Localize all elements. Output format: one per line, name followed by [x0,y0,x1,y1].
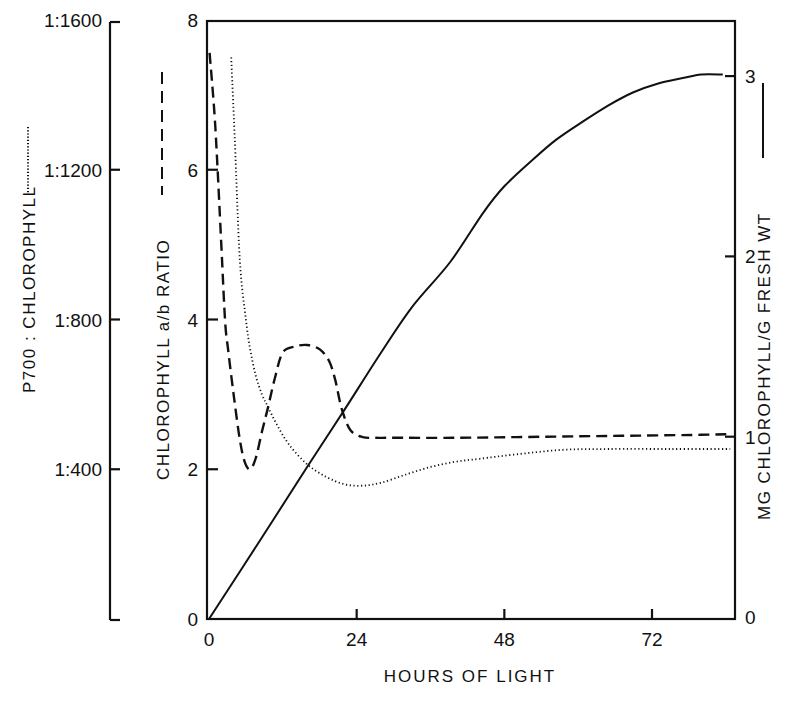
left-axis-label: CHLOROPHYLL a/b RATIO [154,239,173,480]
x-axis-ticks: 0244872 [204,609,663,650]
left-axis-ticks: 02468 [187,10,218,630]
far-left-axis-label: P700 : CHLOROPHYLL [20,186,39,393]
dashed-series-line [210,53,731,469]
far-left-tick-label: 1:800 [54,310,102,331]
far-left-tick-label: 1:1600 [44,10,102,31]
far-left-tick-label: 1:400 [54,459,102,480]
far-left-axis-ticks: 1:4001:8001:12001:1600 [44,10,120,480]
x-tick-label: 0 [204,629,215,650]
chart: 1:4001:8001:12001:1600 02468 0123 024487… [0,0,800,713]
left-tick-label: 8 [187,10,198,31]
x-axis-label: HOURS OF LIGHT [384,667,557,686]
x-tick-label: 72 [641,629,662,650]
left-tick-label: 0 [187,609,198,630]
data-series [209,53,730,619]
plot-frame: 02468 0123 0244872 [187,10,755,650]
left-tick-label: 6 [187,160,198,181]
right-tick-label: 1 [745,427,756,448]
solid-series-line [209,74,723,619]
left-tick-label: 2 [187,459,198,480]
x-tick-label: 24 [346,629,368,650]
far-left-axis: 1:4001:8001:12001:1600 [44,10,120,620]
far-left-axis-title: P700 : CHLOROPHYLL [20,127,39,393]
right-axis-title: MG CHLOROPHYLL/G FRESH WT [755,83,774,520]
dotted-series-line [231,57,730,485]
right-tick-label: 0 [745,607,756,628]
right-axis-label: MG CHLOROPHYLL/G FRESH WT [755,212,774,520]
x-tick-label: 48 [494,629,515,650]
left-axis-title: CHLOROPHYLL a/b RATIO [154,72,173,480]
far-left-tick-label: 1:1200 [44,160,102,181]
left-tick-label: 4 [187,310,198,331]
right-tick-label: 3 [745,66,756,87]
right-axis-ticks: 0123 [725,66,756,628]
right-tick-label: 2 [745,246,756,267]
